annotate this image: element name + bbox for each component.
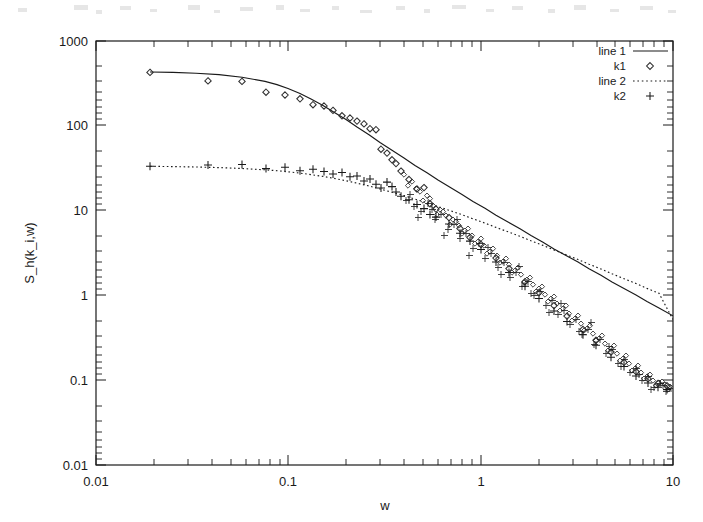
- legend-label: k1: [614, 60, 626, 72]
- x-tick-label: 1: [477, 474, 484, 489]
- legend-label: k2: [614, 90, 626, 102]
- y-tick-label: 1000: [59, 34, 88, 49]
- y-tick-label: 1: [81, 288, 88, 303]
- x-tick-label: 0.01: [83, 474, 108, 489]
- spectrum-plot: 1000 100 10 1 0.1 0.01 0.01 0.1 1 10 w S…: [0, 0, 703, 522]
- figure-container: 1000 100 10 1 0.1 0.01 0.01 0.1 1 10 w S…: [0, 0, 703, 522]
- legend-label: line 1: [599, 45, 627, 57]
- y-axis-label: S_h(k_i,w): [22, 222, 37, 283]
- x-tick-label: 10: [666, 474, 680, 489]
- legend-label: line 2: [599, 75, 627, 87]
- x-tick-label: 0.1: [279, 474, 297, 489]
- y-tick-label: 0.01: [63, 458, 88, 473]
- y-tick-label: 100: [66, 118, 88, 133]
- y-tick-label: 10: [74, 203, 88, 218]
- y-tick-label: 0.1: [70, 373, 88, 388]
- x-axis-label: w: [379, 498, 390, 513]
